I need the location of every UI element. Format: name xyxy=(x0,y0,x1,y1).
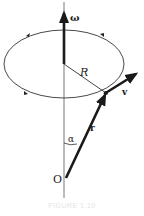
orbit-direction-arrow-icon xyxy=(24,91,28,95)
particle-point xyxy=(104,91,108,95)
velocity-label: v xyxy=(121,87,128,97)
angle-label: α xyxy=(68,134,74,144)
position-label: r xyxy=(90,123,95,133)
radius-label: R xyxy=(79,66,88,79)
rotation-diagram: ω R v r α O xyxy=(0,0,144,216)
figure-caption: FIGURE 1.10 xyxy=(0,202,144,209)
orbit-direction-arrow-icon xyxy=(100,33,104,37)
origin-label: O xyxy=(53,173,62,186)
omega-label: ω xyxy=(70,12,80,23)
